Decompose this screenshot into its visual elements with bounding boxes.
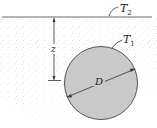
surface-leader <box>109 7 118 16</box>
surface-temperature-label: T2 <box>120 2 132 17</box>
diameter-label: D <box>94 76 103 87</box>
buried-cylinder-diagram: T2 z D T1 <box>0 0 157 128</box>
diagram-canvas: T2 z D T1 <box>0 0 157 128</box>
depth-label: z <box>50 44 56 54</box>
